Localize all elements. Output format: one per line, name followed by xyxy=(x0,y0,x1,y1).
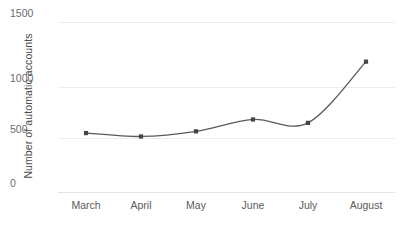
x-tick-july: July xyxy=(299,199,318,211)
y-tick-1000: 1000 xyxy=(10,72,54,86)
y-tick-500: 500 xyxy=(10,123,54,137)
gridline-500 xyxy=(58,138,395,139)
x-tick-may: May xyxy=(186,199,206,211)
y-tick-label: 1500 xyxy=(10,7,54,19)
y-tick-1500: 1500 xyxy=(10,7,54,21)
gridline-1500 xyxy=(58,22,395,23)
data-point-march xyxy=(84,131,88,135)
x-tick-august: August xyxy=(350,199,383,211)
gridline-0 xyxy=(58,192,395,193)
y-axis-title: Number of automatic accounts xyxy=(22,16,34,196)
data-point-july xyxy=(306,121,310,125)
data-point-august xyxy=(364,60,368,64)
series-line xyxy=(86,62,366,137)
series-markers xyxy=(84,60,368,139)
gridline-1000 xyxy=(58,87,395,88)
line-chart: Number of automatic accounts 1500 1000 5… xyxy=(0,0,405,227)
y-tick-label: 1000 xyxy=(10,72,54,84)
data-point-may xyxy=(194,129,198,133)
y-tick-0: 0 xyxy=(10,177,54,191)
x-tick-april: April xyxy=(130,199,151,211)
x-tick-march: March xyxy=(71,199,100,211)
data-point-june xyxy=(251,117,255,121)
y-tick-label: 0 xyxy=(10,177,54,189)
y-tick-label: 500 xyxy=(10,123,54,135)
x-tick-june: June xyxy=(242,199,265,211)
